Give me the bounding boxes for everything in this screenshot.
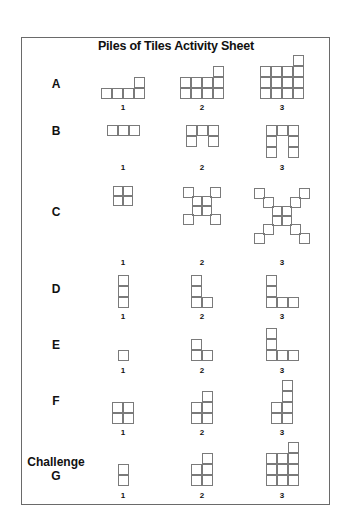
tile-square [123,413,134,424]
figure-number: 3 [272,428,292,437]
tile-square [266,328,277,339]
tile-square [101,88,112,99]
tile-square [191,88,202,99]
tile-square [202,88,213,99]
tile-square [118,464,129,475]
tile-square [277,475,288,486]
tile-square [288,350,299,361]
tile-square [266,350,277,361]
tile-square [118,275,129,286]
tile-square [183,187,194,198]
figure-number: 1 [113,491,133,500]
tile-square [277,464,288,475]
tile-square [118,475,129,486]
tile-square [288,442,299,453]
tile-square [271,402,282,413]
tile-square [277,297,288,308]
tile-square [118,350,129,361]
tile-square [288,125,299,136]
figure-number: 2 [192,312,212,321]
tile-square [191,475,202,486]
tile-square [180,88,191,99]
row-label-text: B [52,124,61,138]
figure-number: 1 [113,428,133,437]
tile-square [282,413,293,424]
tile-square [266,464,277,475]
tile-square [112,413,123,424]
figure-number: 1 [113,163,133,172]
tile-square [266,147,277,158]
figure-number: 3 [272,491,292,500]
tile-square [208,125,219,136]
tile-square [288,475,299,486]
row-label: F [21,394,91,408]
tile-square [293,88,304,99]
tile-square [293,77,304,88]
tile-square [213,77,224,88]
row-label-text: C [52,205,61,219]
tile-square [288,147,299,158]
row-label: C [21,205,91,219]
tile-square [180,77,191,88]
sheet-title: Piles of Tiles Activity Sheet [0,39,350,53]
figure-number: 3 [272,366,292,375]
tile-square [260,66,271,77]
figure-number: 3 [272,258,292,267]
tile-square [271,413,282,424]
tile-square [210,214,221,225]
tile-square [191,77,202,88]
tile-square [202,350,213,361]
tile-square [186,136,197,147]
tile-square [202,297,213,308]
figure-number: 2 [192,491,212,500]
tile-square [266,286,277,297]
tile-square [202,77,213,88]
tile-square [118,125,129,136]
tile-square [254,233,265,244]
tile-square [271,66,282,77]
tile-square [282,402,293,413]
tile-square [191,402,202,413]
row-label: E [21,338,91,352]
row-label-text: A [52,77,61,91]
tile-square [293,66,304,77]
tile-square [191,297,202,308]
row-label-text: E [52,338,60,352]
tile-square [122,195,133,206]
tile-square [277,453,288,464]
tile-square [271,77,282,88]
tile-square [266,136,277,147]
figure-number: 3 [272,312,292,321]
figure-number: 3 [272,163,292,172]
tile-square [282,88,293,99]
tile-square [282,391,293,402]
row-label-text: D [52,282,61,296]
tile-square [191,339,202,350]
tile-square [266,475,277,486]
tile-square [282,66,293,77]
tile-square [134,88,145,99]
tile-square [202,464,213,475]
tile-square [277,350,288,361]
figure-number: 2 [192,366,212,375]
tile-square [260,88,271,99]
row-label: B [21,124,91,138]
row-label-text: Challenge [27,455,84,469]
tile-square [299,188,310,199]
row-label-text: F [52,394,59,408]
tile-square [210,187,221,198]
tile-square [288,453,299,464]
tile-square [202,453,213,464]
row-label: A [21,77,91,91]
tile-square [202,475,213,486]
tile-square [123,88,134,99]
tile-square [118,286,129,297]
tile-square [118,297,129,308]
tile-square [260,77,271,88]
tile-square [183,214,194,225]
tile-square [191,350,202,361]
tile-square [213,66,224,77]
tile-square [112,402,123,413]
tile-square [191,464,202,475]
tile-square [191,413,202,424]
